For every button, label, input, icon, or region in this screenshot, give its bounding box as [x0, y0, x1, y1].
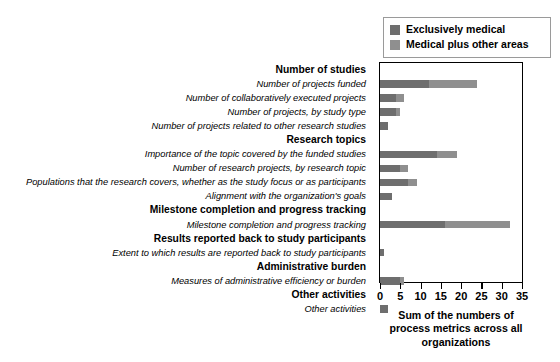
x-axis-tick-labels: 05101520253035: [379, 290, 523, 304]
category-item-label: Measures of administrative efficiency or…: [0, 274, 372, 288]
category-group-label: Results reported back to study participa…: [0, 232, 372, 246]
category-item-label: Number of projects, by study type: [0, 105, 372, 119]
x-axis-title-line-2: process metrics across all: [381, 322, 531, 335]
x-axis-tick: [502, 283, 503, 289]
legend-label-medical-plus-other-areas: Medical plus other areas: [406, 39, 529, 50]
plot-area: [379, 62, 523, 283]
category-item-label: Milestone completion and progress tracki…: [0, 218, 372, 232]
category-item-label: Extent to which results are reported bac…: [0, 246, 372, 260]
x-axis-tick-label: 20: [455, 290, 467, 302]
legend-swatch-exclusively-medical: [390, 25, 400, 35]
x-axis-tick: [461, 283, 462, 289]
category-group-label: Milestone completion and progress tracki…: [0, 203, 372, 217]
x-axis-tick: [421, 283, 422, 289]
legend-swatch-medical-plus-other-areas: [390, 40, 400, 50]
category-group-label: Administrative burden: [0, 260, 372, 274]
x-axis-tick-label: 30: [496, 290, 508, 302]
bar-row: [380, 161, 408, 175]
bar-segment-exclusively-medical: [380, 193, 392, 201]
x-axis-tick: [400, 283, 401, 289]
bar-row: [380, 91, 404, 105]
x-axis-tick-label: 0: [377, 290, 383, 302]
x-axis-tick: [380, 283, 381, 289]
x-axis-title-line-3: organizations: [381, 336, 531, 349]
bar-segment-exclusively-medical: [380, 179, 408, 187]
bar-segment-medical-plus-other-areas: [445, 221, 510, 229]
bar-row: [380, 246, 384, 260]
category-item-label: Number of research projects, by research…: [0, 161, 372, 175]
bar-series-container: [380, 63, 522, 282]
bar-segment-medical-plus-other-areas: [408, 179, 416, 187]
x-axis-tick-label: 5: [397, 290, 403, 302]
bar-segment-medical-plus-other-areas: [429, 80, 478, 88]
bar-row: [380, 189, 392, 203]
bar-segment-medical-plus-other-areas: [400, 165, 408, 173]
bar-row: [380, 218, 510, 232]
bar-segment-medical-plus-other-areas: [396, 94, 404, 102]
bar-row: [380, 77, 477, 91]
bar-segment-exclusively-medical: [380, 108, 396, 116]
chart-figure: Exclusively medical Medical plus other a…: [0, 0, 560, 362]
x-axis-tick: [522, 283, 523, 289]
category-item-label: Alignment with the organization's goals: [0, 189, 372, 203]
category-item-label: Other activities: [0, 302, 372, 316]
category-item-label: Importance of the topic covered by the f…: [0, 147, 372, 161]
x-axis-tick: [481, 283, 482, 289]
x-axis-title-line-1: Sum of the numbers of: [381, 309, 531, 322]
x-axis-tick-label: 10: [414, 290, 426, 302]
category-item-label: Populations that the research covers, wh…: [0, 175, 372, 189]
legend-item-exclusively-medical: Exclusively medical: [390, 22, 544, 37]
bar-segment-exclusively-medical: [380, 165, 400, 173]
category-item-label: Number of collaboratively executed proje…: [0, 91, 372, 105]
x-axis-tick: [441, 283, 442, 289]
bar-segment-exclusively-medical: [380, 221, 445, 229]
bar-row: [380, 119, 388, 133]
chart-legend: Exclusively medical Medical plus other a…: [383, 17, 551, 58]
bar-segment-exclusively-medical: [380, 80, 429, 88]
x-axis-tick-label: 15: [435, 290, 447, 302]
bar-segment-medical-plus-other-areas: [396, 108, 400, 116]
legend-label-exclusively-medical: Exclusively medical: [406, 24, 505, 35]
category-group-label: Number of studies: [0, 63, 372, 77]
bar-segment-exclusively-medical: [380, 249, 384, 257]
bar-row: [380, 175, 417, 189]
category-item-label: Number of projects funded: [0, 77, 372, 91]
category-axis-labels: Number of studiesNumber of projects fund…: [0, 63, 372, 316]
category-group-label: Other activities: [0, 288, 372, 302]
legend-item-medical-plus-other-areas: Medical plus other areas: [390, 37, 544, 52]
x-axis-title: Sum of the numbers of process metrics ac…: [381, 309, 531, 349]
bar-segment-medical-plus-other-areas: [437, 151, 457, 159]
bar-row: [380, 105, 400, 119]
category-group-label: Research topics: [0, 133, 372, 147]
bar-segment-exclusively-medical: [380, 94, 396, 102]
category-item-label: Number of projects related to other rese…: [0, 119, 372, 133]
x-axis-tick-label: 25: [475, 290, 487, 302]
x-axis-tick-label: 35: [516, 290, 528, 302]
bar-segment-exclusively-medical: [380, 151, 437, 159]
bar-segment-exclusively-medical: [380, 122, 388, 130]
bar-row: [380, 147, 457, 161]
